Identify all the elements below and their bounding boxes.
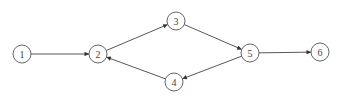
directed-graph: 1 2 3 4 5 6 [0, 0, 341, 105]
node-4: 4 [165, 73, 183, 91]
node-3: 3 [167, 12, 185, 30]
node-5: 5 [241, 44, 259, 62]
node-label: 6 [318, 47, 323, 58]
edge-5-to-4 [182, 56, 241, 79]
node-2: 2 [89, 45, 107, 63]
edge-4-to-2 [106, 57, 165, 79]
node-label: 4 [172, 77, 177, 88]
node-label: 3 [174, 16, 179, 27]
node-6: 6 [311, 43, 329, 61]
edge-3-to-5 [184, 25, 241, 50]
node-label: 2 [96, 49, 101, 60]
edge-5-to-6 [259, 52, 311, 53]
node-1: 1 [13, 45, 31, 63]
node-label: 5 [248, 48, 253, 59]
edge-2-to-3 [106, 25, 167, 51]
node-label: 1 [20, 49, 25, 60]
